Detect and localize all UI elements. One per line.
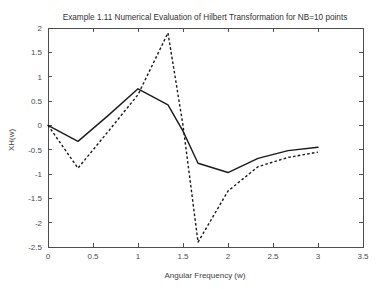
figure-container: Example 1.11 Numerical Evaluation of Hil… xyxy=(0,0,382,289)
y-tick-label: 1 xyxy=(38,73,43,82)
y-tick-label: 0 xyxy=(38,121,43,130)
y-tick-label: -2 xyxy=(35,219,43,228)
x-tick-label: 1.5 xyxy=(177,252,189,261)
y-tick-label: -0.5 xyxy=(28,146,42,155)
y-tick-label: 2 xyxy=(38,24,43,33)
x-tick-label: 0 xyxy=(46,252,51,261)
x-tick-label: 2.5 xyxy=(267,252,279,261)
x-tick-label: 0.5 xyxy=(87,252,99,261)
x-tick-label: 1 xyxy=(136,252,141,261)
x-tick-label: 3.5 xyxy=(357,252,369,261)
x-tick-label: 3 xyxy=(316,252,321,261)
y-tick-label: 1.5 xyxy=(31,48,43,57)
y-tick-label: 0.5 xyxy=(31,97,43,106)
x-axis-label: Angular Frequency (w) xyxy=(165,271,246,280)
y-tick-label: -1.5 xyxy=(28,194,42,203)
y-axis-label: XH(w) xyxy=(7,129,16,152)
plot-background xyxy=(48,28,363,247)
hilbert-transform-chart: Example 1.11 Numerical Evaluation of Hil… xyxy=(0,0,382,289)
y-tick-label: -2.5 xyxy=(28,243,42,252)
x-tick-label: 2 xyxy=(226,252,231,261)
chart-title: Example 1.11 Numerical Evaluation of Hil… xyxy=(63,13,348,22)
y-tick-label: -1 xyxy=(35,170,43,179)
